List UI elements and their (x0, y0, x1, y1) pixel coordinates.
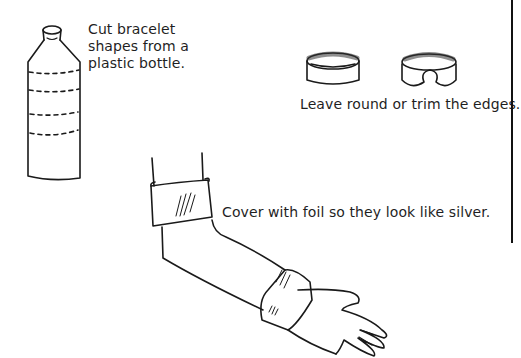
bottle-caption-line-2: shapes from a (88, 38, 189, 55)
bottle-caption-line-3: plastic bottle. (88, 55, 189, 72)
foil-caption: Cover with foil so they look like silver… (222, 204, 490, 221)
bottle-caption-line-1: Cut bracelet (88, 21, 189, 38)
plastic-bottle-illustration (28, 26, 80, 180)
craft-illustration (0, 0, 521, 358)
page-border-line (511, 0, 513, 243)
arm-with-bracelets-illustration (151, 153, 387, 356)
round-bracelet-illustration (307, 53, 359, 84)
trim-caption: Leave round or trim the edges. (300, 96, 520, 113)
bottle-caption: Cut bracelet shapes from a plastic bottl… (88, 21, 189, 72)
open-bracelet-illustration (402, 54, 456, 86)
